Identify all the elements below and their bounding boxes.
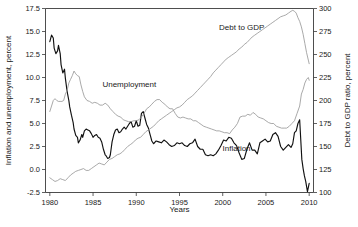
chart-canvas: -2.50.02.55.07.510.012.515.017.510012515… bbox=[0, 0, 358, 227]
y-axis-left-tick-label: 0.0 bbox=[30, 165, 40, 174]
y-axis-left-tick-label: 7.5 bbox=[30, 96, 40, 105]
x-axis-tick-label: 2010 bbox=[301, 198, 318, 207]
y-axis-left-tick-label: 12.5 bbox=[25, 50, 40, 59]
series-line-inflation bbox=[50, 35, 309, 191]
annotation-inflation: Inflation bbox=[223, 144, 251, 153]
annotation-debt-to-gdp: Debt to GDP bbox=[219, 23, 264, 32]
y-axis-left-tick-label: 2.5 bbox=[30, 142, 40, 151]
annotation-unemployment: Unemployment bbox=[102, 80, 157, 89]
y-axis-right-tick-label: 300 bbox=[319, 4, 332, 13]
y-axis-left-tick-label: -2.5 bbox=[27, 188, 40, 197]
y-axis-right-tick-label: 100 bbox=[319, 188, 332, 197]
y-axis-left-tick-label: 5.0 bbox=[30, 119, 40, 128]
x-axis-tick-label: 2000 bbox=[214, 198, 231, 207]
y-axis-right-tick-label: 175 bbox=[319, 119, 332, 128]
y-axis-right-tick-label: 225 bbox=[319, 73, 332, 82]
chart-figure: -2.50.02.55.07.510.012.515.017.510012515… bbox=[0, 0, 358, 227]
x-axis-tick-label: 1990 bbox=[128, 198, 145, 207]
x-axis-tick-label: 2005 bbox=[258, 198, 275, 207]
y-axis-right-tick-label: 275 bbox=[319, 27, 332, 36]
y-axis-right-tick-label: 250 bbox=[319, 50, 332, 59]
y-axis-right-tick-label: 125 bbox=[319, 165, 332, 174]
y-axis-left-tick-label: 15.0 bbox=[25, 27, 40, 36]
x-axis-tick-label: 1985 bbox=[85, 198, 102, 207]
y-axis-left-tick-label: 17.5 bbox=[25, 4, 40, 13]
y-axis-right-tick-label: 200 bbox=[319, 96, 332, 105]
y-axis-right-title: Debt to GDP ratio, percent bbox=[343, 53, 352, 148]
x-axis-title: Years bbox=[169, 205, 189, 214]
x-axis-tick-label: 1980 bbox=[41, 198, 58, 207]
series-line-debt-to-gdp bbox=[50, 10, 309, 181]
series-line-unemployment bbox=[50, 71, 309, 134]
y-axis-left-title: Inflation and unemployment, percent bbox=[4, 35, 13, 165]
y-axis-left-tick-label: 10.0 bbox=[25, 73, 40, 82]
y-axis-right-tick-label: 150 bbox=[319, 142, 332, 151]
